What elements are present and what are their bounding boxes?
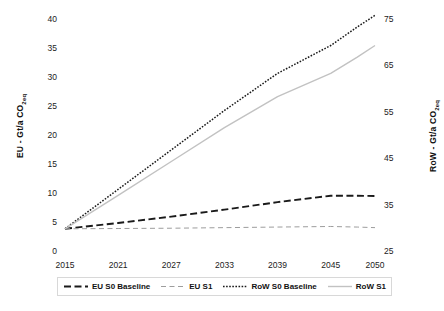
series-line-eu-s1 xyxy=(65,226,375,228)
legend-item[interactable]: RoW S1 xyxy=(322,282,391,291)
plot-area xyxy=(0,0,444,311)
legend-item-label: EU S0 Baseline xyxy=(92,282,150,291)
series-line-row-s1 xyxy=(65,46,375,229)
series-line-eu-s0-baseline xyxy=(65,196,375,229)
legend-item[interactable]: EU S0 Baseline xyxy=(58,282,155,291)
legend-item-label: RoW S0 Baseline xyxy=(251,282,316,291)
chart-container: EU - Gt/a CO2eq RoW - Gt/a CO2eq 0510152… xyxy=(0,0,444,311)
legend-item[interactable]: RoW S0 Baseline xyxy=(217,282,321,291)
legend-item-label: RoW S1 xyxy=(356,282,386,291)
legend-item[interactable]: EU S1 xyxy=(155,282,217,291)
chart-legend: EU S0 BaselineEU S1RoW S0 BaselineRoW S1 xyxy=(57,277,392,296)
legend-swatch-icon xyxy=(63,282,89,291)
legend-swatch-icon xyxy=(222,282,248,291)
legend-item-label: EU S1 xyxy=(189,282,212,291)
legend-swatch-icon xyxy=(160,282,186,291)
legend-swatch-icon xyxy=(327,282,353,291)
